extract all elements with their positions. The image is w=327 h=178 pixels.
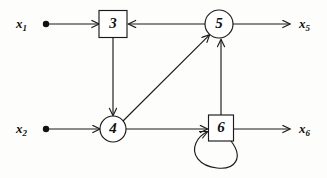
diagram-canvas: 3 5 4 6 x1 x2 x5 x6	[0, 0, 327, 178]
node-label-4: 4	[100, 121, 126, 136]
input-dot-x1	[43, 21, 49, 27]
node-label-6: 6	[208, 120, 234, 135]
signal-flow-graph	[0, 0, 327, 178]
edge-4-to-5	[123, 35, 210, 121]
input-label-x1-sub: 1	[23, 23, 28, 33]
output-label-x6-sub: 6	[306, 128, 311, 138]
node-label-5: 5	[205, 16, 233, 31]
output-label-x5-sub: 5	[306, 23, 311, 33]
output-label-x6: x6	[299, 121, 310, 138]
input-label-x2: x2	[16, 121, 27, 138]
input-label-x1: x1	[16, 16, 27, 33]
input-label-x2-sub: 2	[23, 128, 28, 138]
node-label-3: 3	[99, 16, 127, 31]
output-label-x5: x5	[299, 16, 310, 33]
input-dot-x2	[43, 126, 49, 132]
